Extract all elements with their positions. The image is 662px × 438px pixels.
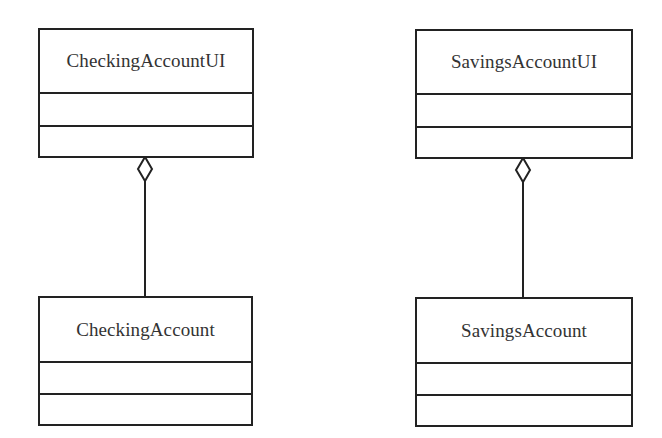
class-name: CheckingAccountUI xyxy=(40,30,252,94)
operations-compartment xyxy=(417,128,631,157)
uml-class-diagram: CheckingAccountUI CheckingAccount Saving… xyxy=(0,0,662,438)
class-name: CheckingAccount xyxy=(40,298,251,363)
attributes-compartment xyxy=(40,94,252,127)
class-name: SavingsAccountUI xyxy=(417,31,631,95)
operations-compartment xyxy=(40,127,252,156)
operations-compartment xyxy=(417,396,631,425)
class-checking-account-ui[interactable]: CheckingAccountUI xyxy=(38,28,254,158)
aggregation-checking xyxy=(138,157,152,297)
attributes-compartment xyxy=(417,364,631,396)
class-name: SavingsAccount xyxy=(417,299,631,364)
class-savings-account[interactable]: SavingsAccount xyxy=(415,297,633,427)
aggregation-savings xyxy=(516,158,530,298)
class-savings-account-ui[interactable]: SavingsAccountUI xyxy=(415,29,633,159)
attributes-compartment xyxy=(40,363,251,395)
operations-compartment xyxy=(40,395,251,424)
class-checking-account[interactable]: CheckingAccount xyxy=(38,296,253,426)
hollow-diamond-icon xyxy=(516,158,530,182)
hollow-diamond-icon xyxy=(138,157,152,181)
attributes-compartment xyxy=(417,95,631,128)
